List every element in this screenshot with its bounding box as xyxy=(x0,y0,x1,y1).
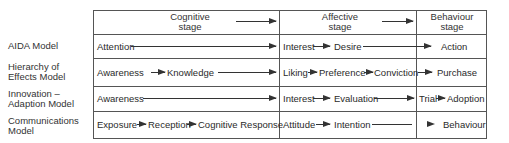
header-cognitive-line2: stage xyxy=(150,22,230,32)
step-cognitive-response: Cognitive Response xyxy=(198,119,283,130)
header-cognitive-stage: Cognitive stage xyxy=(150,12,230,31)
arrow-icon xyxy=(137,124,146,125)
table-border-right xyxy=(486,10,487,139)
step-action: Action xyxy=(441,41,467,52)
arrow-icon xyxy=(131,46,276,47)
step-purchase: Purchase xyxy=(437,67,477,78)
step-attitude: Attitude xyxy=(283,119,315,130)
arrow-icon xyxy=(187,124,196,125)
arrow-icon xyxy=(364,72,373,73)
connector-line xyxy=(372,124,412,125)
step-knowledge: Knowledge xyxy=(167,67,214,78)
arrow-icon xyxy=(313,46,330,47)
step-awareness: Awareness xyxy=(97,93,144,104)
arrow-icon xyxy=(236,21,276,22)
header-behaviour-line2: stage xyxy=(418,22,486,32)
arrow-icon xyxy=(374,98,414,99)
arrow-icon xyxy=(363,46,431,47)
arrow-icon xyxy=(143,98,276,99)
model-label-hierarchy-of-effects: Hierarchy of Effects Model xyxy=(8,62,65,82)
step-behaviour: Behaviour xyxy=(443,119,486,130)
model-label-line1: AIDA Model xyxy=(8,41,58,51)
step-preference: Preference xyxy=(319,67,365,78)
arrow-head-icon xyxy=(427,121,435,127)
arrow-icon xyxy=(151,72,165,73)
arrow-icon xyxy=(308,72,317,73)
arrow-icon xyxy=(382,21,413,22)
step-desire: Desire xyxy=(334,41,361,52)
arrow-icon xyxy=(436,98,445,99)
model-label-line2: Effects Model xyxy=(8,72,65,82)
model-label-line2: Model xyxy=(8,126,79,136)
model-label-communications: Communications Model xyxy=(8,116,79,136)
model-label-line2: Adaption Model xyxy=(8,99,74,109)
row-divider-2 xyxy=(93,86,487,87)
step-awareness: Awareness xyxy=(97,67,144,78)
header-behaviour-stage: Behaviour stage xyxy=(418,12,486,31)
row-divider-1 xyxy=(93,58,487,59)
step-adoption: Adoption xyxy=(447,93,485,104)
step-attention: Attention xyxy=(97,41,135,52)
header-affective-stage: Affective stage xyxy=(310,12,370,31)
table-border-bottom xyxy=(93,138,487,139)
arrow-icon xyxy=(313,98,330,99)
model-label-innovation-adaption: Innovation – Adaption Model xyxy=(8,89,74,109)
step-interest: Interest xyxy=(283,93,315,104)
table-border-top xyxy=(93,10,487,11)
header-divider xyxy=(93,34,487,35)
step-trial: Trial xyxy=(419,93,437,104)
arrow-icon xyxy=(418,72,432,73)
step-interest: Interest xyxy=(283,41,315,52)
step-liking: Liking xyxy=(283,67,308,78)
arrow-icon xyxy=(218,72,276,73)
step-evaluation: Evaluation xyxy=(334,93,378,104)
table-border-left xyxy=(93,10,94,139)
row-divider-3 xyxy=(93,111,487,112)
arrow-icon xyxy=(316,124,330,125)
step-reception: Reception xyxy=(148,119,191,130)
step-intention: Intention xyxy=(334,119,370,130)
step-exposure: Exposure xyxy=(97,119,137,130)
step-conviction: Conviction xyxy=(374,67,418,78)
header-affective-line2: stage xyxy=(310,22,370,32)
model-label-aida: AIDA Model xyxy=(8,41,58,51)
